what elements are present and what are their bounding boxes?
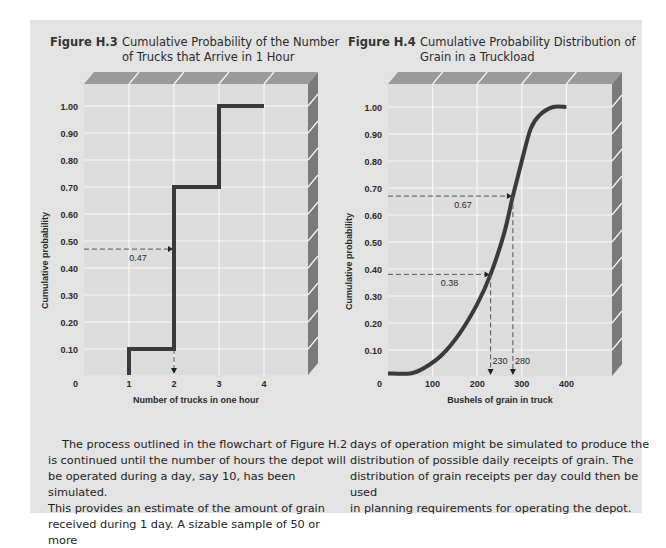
y-tick-label: 0.40 [364,265,382,275]
y-tick-label: 0.50 [364,238,382,248]
text-line: The process outlined in the flowchart of… [48,437,348,453]
x-tick-label: 100 [425,379,440,389]
y-tick-label: 0.10 [364,346,382,356]
y-tick-label: 0.90 [364,130,382,140]
text-line: distribution of possible daily receipts … [350,453,650,469]
text-line: in planning requirements for operating t… [350,501,650,517]
y-tick-label: 0.80 [364,157,382,167]
x-tick-label: 400 [559,379,574,389]
annotation-label: 0.38 [441,278,459,288]
text-line: distribution of grain receipts per day c… [350,469,650,501]
annotation-label: 0.67 [454,200,472,210]
plot-side-face [612,72,622,376]
x-tick-label: 0 [377,379,382,389]
text-line: received during 1 day. A sizable sample … [48,517,348,548]
y-axis-label: Cumulative probability [344,213,354,310]
text-line: This provides an estimate of the amount … [48,501,348,517]
body-text-left: The process outlined in the flowchart of… [48,437,348,548]
text-line: be operated during a day, say 10, has be… [48,469,348,501]
y-tick-label: 1.00 [364,103,382,113]
plot-area [388,84,612,376]
text-line: days of operation might be simulated to … [350,437,650,453]
body-text-right: days of operation might be simulated to … [350,437,650,517]
y-tick-label: 0.60 [364,211,382,221]
annotation-x-label: 280 [515,356,530,366]
x-tick-label: 200 [470,379,485,389]
plot-top-face [388,72,622,84]
x-axis-label: Bushels of grain in truck [447,395,554,405]
annotation-x-label: 230 [493,356,508,366]
y-tick-label: 0.30 [364,292,382,302]
x-tick-label: 300 [514,379,529,389]
text-line: is continued until the number of hours t… [48,453,348,469]
y-tick-label: 0.20 [364,319,382,329]
y-tick-label: 0.70 [364,184,382,194]
